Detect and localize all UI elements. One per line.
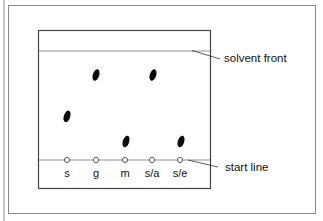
origin-point-s bbox=[64, 157, 69, 162]
chromatography-diagram: solvent front start line sgms/as/e bbox=[0, 0, 323, 221]
solvent-front-label: solvent front bbox=[224, 52, 287, 64]
lane-label-s-e: s/e bbox=[173, 167, 188, 179]
start-line-label: start line bbox=[225, 161, 268, 173]
lane-label-m: m bbox=[120, 167, 129, 179]
lane-label-s: s bbox=[64, 167, 70, 179]
lane-label-s-a: s/a bbox=[145, 167, 161, 179]
origin-point-m bbox=[122, 157, 127, 162]
origin-point-s-e bbox=[177, 157, 182, 162]
origin-point-s-a bbox=[149, 157, 154, 162]
chromatography-plate bbox=[39, 31, 211, 189]
lane-label-g: g bbox=[93, 167, 99, 179]
origin-point-g bbox=[93, 157, 98, 162]
